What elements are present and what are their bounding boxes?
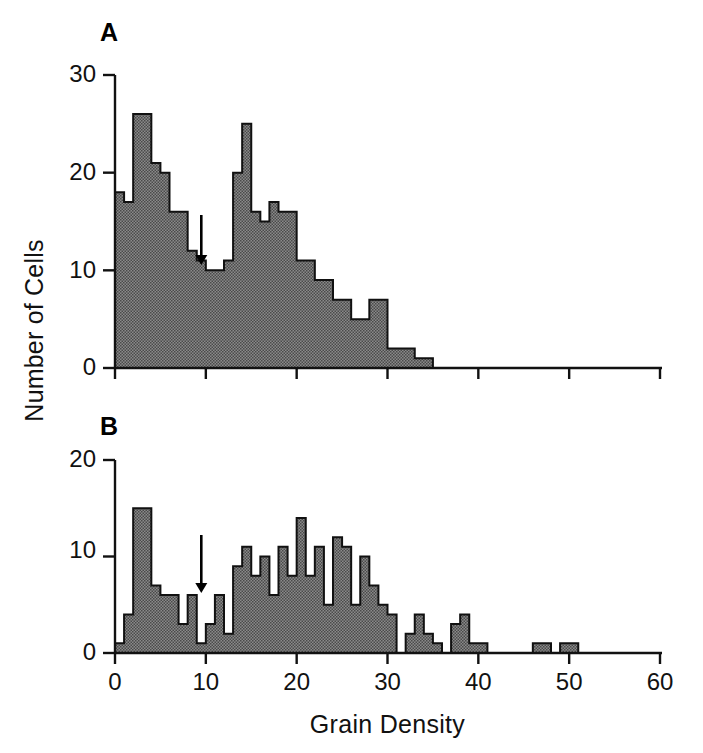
panel-a-ytick-20: 20 [52, 158, 96, 186]
annotation-arrow-a [195, 215, 207, 265]
figure-container: Number of Cells Grain Density A B 010203… [0, 0, 703, 753]
xtick-30: 30 [366, 668, 410, 696]
panel-b-plot [0, 400, 703, 710]
panel-b-chart [0, 400, 703, 710]
panel-b-ytick-0: 0 [52, 638, 96, 666]
panel-a-chart [0, 0, 703, 400]
panel-a-ytick-10: 10 [52, 256, 96, 284]
x-axis-title: Grain Density [115, 710, 660, 739]
panel-a-plot [0, 0, 703, 400]
panel-b-ytick-10: 10 [52, 536, 96, 564]
panel-a-ytick-0: 0 [52, 353, 96, 381]
xtick-10: 10 [184, 668, 228, 696]
annotation-arrow-b [195, 535, 207, 593]
panel-a-ytick-30: 30 [52, 60, 96, 88]
xtick-50: 50 [547, 668, 591, 696]
panel-b-ytick-20: 20 [52, 445, 96, 473]
xtick-40: 40 [456, 668, 500, 696]
xtick-0: 0 [93, 668, 137, 696]
xtick-60: 60 [638, 668, 682, 696]
xtick-20: 20 [275, 668, 319, 696]
